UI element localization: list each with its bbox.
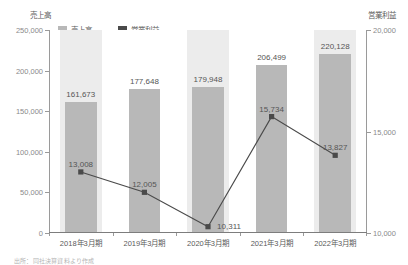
line-value-label: 12,005 <box>132 180 156 189</box>
left-axis-title: 売上高 <box>30 9 51 20</box>
chart-container: 売上高 営業利益 売上高 営業利益 050,000100,000150,0002… <box>0 0 408 265</box>
x-axis-tick <box>49 233 50 236</box>
x-axis-tick <box>303 233 304 236</box>
bar-value-label: 161,673 <box>66 90 95 99</box>
x-axis-category-label: 2021年3月期 <box>251 237 293 248</box>
line-value-label: 13,008 <box>69 160 93 169</box>
x-axis-tick <box>113 233 114 236</box>
x-axis-tick <box>240 233 241 236</box>
plot-area: 050,000100,000150,000200,000250,000 10,0… <box>49 30 367 233</box>
line-value-label: 10,311 <box>217 222 241 231</box>
line-path <box>81 117 335 227</box>
x-axis-category-label: 2018年3月期 <box>60 237 102 248</box>
right-axis-line <box>366 30 367 233</box>
line-marker <box>142 190 147 195</box>
bar-value-label: 206,499 <box>257 53 286 62</box>
right-axis-tick-label: 20,000 <box>373 26 396 35</box>
left-axis-tick-label: 100,000 <box>16 147 43 156</box>
line-value-label: 15,734 <box>259 105 283 114</box>
left-axis-tick-label: 150,000 <box>16 107 43 116</box>
x-axis-line <box>49 232 367 233</box>
line-marker <box>205 224 210 229</box>
left-axis-tick-label: 50,000 <box>20 188 43 197</box>
source-note: 出所：同社決算資料より作成 <box>14 256 95 265</box>
bar-value-label: 177,648 <box>130 77 159 86</box>
line-series-operating-profit <box>49 30 367 233</box>
x-axis-category-label: 2020年3月期 <box>187 237 229 248</box>
x-axis-category-label: 2019年3月期 <box>123 237 165 248</box>
right-axis-tick-label: 10,000 <box>373 229 396 238</box>
line-marker <box>269 114 274 119</box>
x-axis-tick <box>176 233 177 236</box>
bar-value-label: 179,948 <box>194 75 223 84</box>
x-axis-category-label: 2022年3月期 <box>314 237 356 248</box>
left-axis-tick-label: 250,000 <box>16 26 43 35</box>
right-axis-title: 営業利益 <box>368 9 396 20</box>
line-value-label: 13,827 <box>323 143 347 152</box>
right-axis-tick-label: 15,000 <box>373 127 396 136</box>
line-marker <box>333 153 338 158</box>
left-axis-line <box>49 30 50 233</box>
x-axis-tick <box>366 233 367 236</box>
left-axis-tick-label: 0 <box>39 229 43 238</box>
bar-value-label: 220,128 <box>321 42 350 51</box>
line-marker <box>78 169 83 174</box>
left-axis-tick-label: 200,000 <box>16 66 43 75</box>
